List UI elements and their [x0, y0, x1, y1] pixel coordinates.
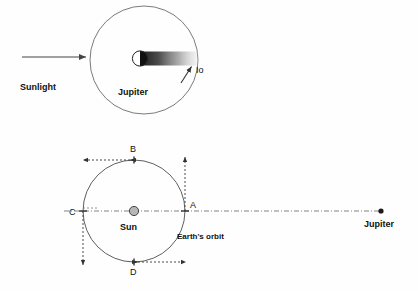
- sunlight-label: Sunlight: [20, 82, 56, 92]
- jupiter-label-bottom: Jupiter: [364, 219, 395, 229]
- figure-background: [0, 0, 418, 291]
- sun-label: Sun: [120, 222, 137, 232]
- orbit-point-label-c: C: [69, 207, 76, 217]
- jupiter-label-top: Jupiter: [118, 87, 149, 97]
- jupiter-shadow-cone: [140, 52, 202, 66]
- orbit-point-label-b: B: [130, 144, 136, 154]
- roemer-light-speed-figure: Sunlight Jupiter Io A B C D: [0, 0, 418, 291]
- earth-orbit-label: Earth's orbit: [177, 232, 224, 241]
- orbit-point-label-a: A: [190, 200, 196, 210]
- orbit-point-label-d: D: [130, 267, 137, 277]
- sun-body: [129, 206, 138, 215]
- jupiter-dot: [378, 208, 383, 213]
- io-label: Io: [196, 65, 204, 75]
